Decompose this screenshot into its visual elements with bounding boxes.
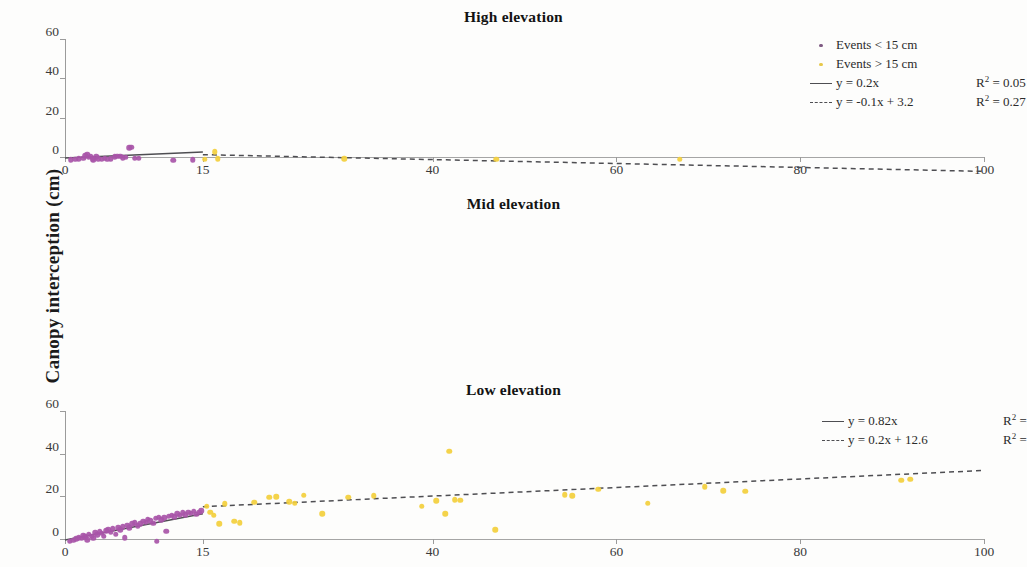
panel-mid-elevation: Mid elevation 0204060015406080100 y = 0.… <box>0 190 1027 380</box>
panel-low-elevation: Low elevation 0204060015406080100 y = 0.… <box>0 380 1027 567</box>
data-point <box>493 156 499 162</box>
data-point <box>128 144 134 150</box>
data-point <box>123 154 129 160</box>
x-axis-tick-label: 15 <box>196 162 210 180</box>
panel-title: Low elevation <box>0 381 1027 399</box>
x-axis-tick-label: 40 <box>426 162 440 180</box>
legend-r2: R2 = 0.05 <box>976 73 1026 93</box>
panel-high-elevation: High elevation 0204060015406080100 Event… <box>0 0 1027 190</box>
data-point <box>171 157 177 163</box>
legend-equation: y = -0.1x + 3.2 <box>836 93 914 112</box>
data-point <box>202 156 208 162</box>
legend-item-small-events: Events < 15 cm <box>806 36 917 55</box>
y-axis-tick-label: 40 <box>46 63 60 79</box>
legend-dot-large-icon <box>806 63 836 67</box>
x-axis-tick-label: 80 <box>793 162 807 180</box>
legend-r2-value: = 0.27 <box>992 95 1025 110</box>
data-point <box>212 149 218 155</box>
legend-r2: R2 = 0.27 <box>976 92 1026 112</box>
data-point <box>136 156 142 162</box>
legend-high-elevation: Events < 15 cm Events > 15 cm y = 0.2x R… <box>806 36 917 112</box>
x-axis-tick-label: 60 <box>610 162 624 180</box>
legend-equation: y = 0.2x <box>836 74 879 93</box>
legend-item-large-events: Events > 15 cm <box>806 55 917 74</box>
legend-dot-small-icon <box>806 44 836 48</box>
legend-solid-line-icon <box>806 83 836 84</box>
data-point <box>215 156 221 162</box>
legend-label: Events < 15 cm <box>836 36 917 55</box>
legend-dashed-line-icon <box>806 102 836 103</box>
y-axis-tick-label: 0 <box>52 142 59 158</box>
legend-item-fit-dashed: y = -0.1x + 3.2 R2 = 0.27 <box>806 93 917 112</box>
y-axis-tick-label: 20 <box>46 103 60 119</box>
legend-item-fit-solid: y = 0.2x R2 = 0.05 <box>806 74 917 93</box>
data-point <box>677 157 683 163</box>
trend-line-dashed <box>203 155 984 172</box>
figure-canvas: Canopy interception (cm) High elevation … <box>0 0 1027 567</box>
y-axis-tick-label: 60 <box>46 24 60 40</box>
panel-title: High elevation <box>0 8 1027 26</box>
legend-label: Events > 15 cm <box>836 55 917 74</box>
data-point <box>190 157 196 163</box>
panel-title: Mid elevation <box>0 195 1027 213</box>
x-axis-tick-label: 0 <box>62 162 69 180</box>
legend-r2-value: = 0.05 <box>992 76 1025 91</box>
data-point <box>342 156 348 162</box>
